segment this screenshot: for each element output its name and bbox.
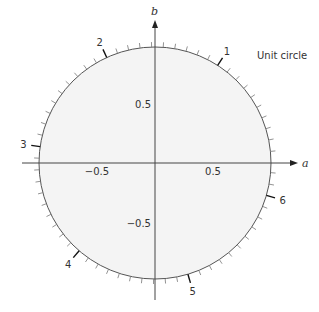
minor-tick <box>199 270 201 275</box>
x-tick-label-neg: −0.5 <box>85 166 109 177</box>
unit-circle-diagram: 123456 a b 0.5 −0.5 0.5 −0.5 Unit circle <box>0 0 319 312</box>
minor-tick <box>46 111 51 113</box>
minor-tick <box>209 265 211 269</box>
minor-tick <box>237 245 241 249</box>
minor-tick <box>257 105 261 107</box>
minor-tick <box>42 204 47 206</box>
major-tick <box>218 58 223 66</box>
minor-tick <box>208 55 210 59</box>
minor-tick <box>85 258 88 262</box>
radian-label-1: 1 <box>224 46 230 57</box>
minor-tick <box>186 46 187 51</box>
minor-tick <box>67 243 71 246</box>
major-tick <box>73 251 79 258</box>
minor-tick <box>263 206 268 208</box>
minor-tick <box>139 43 140 48</box>
minor-tick <box>66 81 70 84</box>
minor-tick <box>229 253 232 257</box>
minor-tick <box>74 73 77 77</box>
minor-tick <box>51 101 55 104</box>
minor-tick <box>141 278 142 283</box>
x-axis-label: a <box>302 157 309 170</box>
minor-tick <box>245 236 249 239</box>
minor-tick <box>46 214 50 216</box>
arrow-right-icon <box>290 160 298 166</box>
minor-tick <box>262 116 267 118</box>
y-tick-label-neg: −0.5 <box>127 218 151 229</box>
minor-tick <box>197 50 199 55</box>
x-tick-label-pos: 0.5 <box>205 166 221 177</box>
minor-tick <box>52 224 56 227</box>
radian-label-3: 3 <box>20 139 26 150</box>
radian-label-4: 4 <box>65 259 71 270</box>
diagram-title: Unit circle <box>257 50 307 61</box>
radian-label-6: 6 <box>280 195 286 206</box>
minor-tick <box>269 139 274 140</box>
minor-tick <box>41 122 46 124</box>
arrow-up-icon <box>152 20 158 28</box>
minor-tick <box>128 45 129 50</box>
minor-tick <box>94 59 97 63</box>
major-tick <box>103 49 107 57</box>
y-axis-label: b <box>151 5 158 18</box>
minor-tick <box>38 193 43 194</box>
major-tick <box>31 145 40 146</box>
minor-tick <box>36 181 41 182</box>
major-tick <box>188 274 191 283</box>
minor-tick <box>96 264 98 268</box>
minor-tick <box>252 227 256 230</box>
minor-tick <box>107 269 109 274</box>
minor-tick <box>258 217 262 219</box>
minor-tick <box>84 65 87 69</box>
minor-tick <box>251 95 255 98</box>
y-tick-label-pos: 0.5 <box>135 99 151 110</box>
radian-label-5: 5 <box>190 286 196 297</box>
minor-tick <box>269 184 274 185</box>
minor-tick <box>38 134 43 135</box>
minor-tick <box>59 234 63 237</box>
minor-tick <box>118 273 120 278</box>
major-tick <box>266 195 275 198</box>
minor-tick <box>116 48 118 53</box>
minor-tick <box>175 44 176 49</box>
minor-tick <box>129 276 130 281</box>
minor-tick <box>58 91 62 94</box>
minor-tick <box>177 277 178 282</box>
minor-tick <box>244 85 248 88</box>
minor-tick <box>266 127 271 128</box>
minor-tick <box>227 68 230 72</box>
minor-tick <box>236 76 239 80</box>
minor-tick <box>219 260 222 264</box>
radian-label-2: 2 <box>96 37 102 48</box>
